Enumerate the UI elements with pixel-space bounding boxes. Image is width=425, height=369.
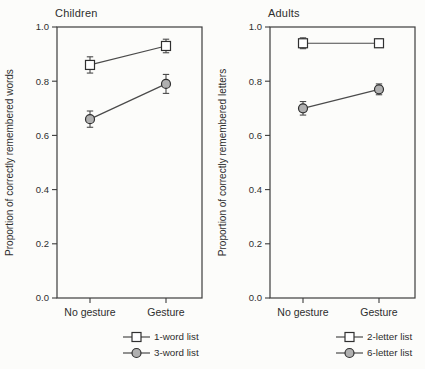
circle-marker [132, 349, 141, 358]
square-marker [86, 60, 95, 69]
x-axis: No gestureGesture [277, 298, 398, 318]
y-axis-title: Proportion of correctly remembered words [4, 69, 15, 256]
series-line [90, 84, 166, 119]
series-3-word-list [86, 74, 171, 127]
circle-marker [374, 85, 383, 94]
square-marker [299, 39, 308, 48]
children-chart: 0.00.20.40.60.81.0No gestureGesturePropo… [0, 0, 212, 369]
x-axis: No gestureGesture [64, 298, 185, 318]
y-tick-label: 0.6 [36, 130, 49, 141]
y-tick-label: 0.8 [249, 76, 262, 87]
adults-panel: Adults 0.00.20.40.60.81.0No gestureGestu… [213, 0, 425, 369]
square-marker [132, 333, 141, 342]
y-tick-label: 0.2 [249, 238, 262, 249]
gesture-memory-figure: Children 0.00.20.40.60.81.0No gestureGes… [0, 0, 425, 369]
y-tick-label: 0.0 [249, 292, 262, 303]
y-axis: 0.00.20.40.60.81.0 [249, 21, 270, 303]
y-tick-label: 0.4 [249, 184, 262, 195]
square-marker [345, 333, 354, 342]
legend-label: 3-word list [154, 347, 199, 358]
circle-marker [161, 79, 170, 88]
y-axis: 0.00.20.40.60.81.0 [36, 21, 57, 303]
y-tick-label: 0.2 [36, 238, 49, 249]
y-tick-label: 0.8 [36, 76, 49, 87]
square-marker [161, 41, 170, 50]
legend: 1-word list3-word list [123, 331, 199, 358]
plot-box [57, 27, 202, 298]
children-panel: Children 0.00.20.40.60.81.0No gestureGes… [0, 0, 212, 369]
legend-label: 1-word list [154, 331, 199, 342]
y-tick-label: 0.6 [249, 130, 262, 141]
circle-marker [299, 104, 308, 113]
legend-label: 6-letter list [367, 347, 412, 358]
circle-marker [345, 349, 354, 358]
x-tick-label: No gesture [64, 306, 116, 318]
y-axis-title: Proportion of correctly remembered lette… [217, 69, 228, 256]
x-tick-label: Gesture [147, 306, 185, 318]
plot-box [270, 27, 415, 298]
legend-label: 2-letter list [367, 331, 412, 342]
adults-chart: 0.00.20.40.60.81.0No gestureGesturePropo… [213, 0, 425, 369]
series-6-letter-list [299, 84, 384, 115]
series-1-word-list [86, 39, 171, 73]
y-tick-label: 0.0 [36, 292, 49, 303]
y-tick-label: 1.0 [249, 21, 262, 32]
circle-marker [86, 115, 95, 124]
series-line [90, 46, 166, 65]
x-tick-label: Gesture [360, 306, 398, 318]
square-marker [374, 39, 383, 48]
x-tick-label: No gesture [277, 306, 329, 318]
series-line [303, 89, 379, 108]
y-tick-label: 1.0 [36, 21, 49, 32]
y-tick-label: 0.4 [36, 184, 49, 195]
series-2-letter-list [299, 38, 384, 49]
legend: 2-letter list6-letter list [336, 331, 412, 358]
